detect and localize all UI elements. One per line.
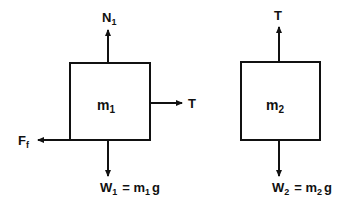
block-m2-label: m2: [266, 97, 284, 115]
weight-force-label-m1: W1= m1g: [100, 180, 160, 197]
block-m1: m1 N1 T Ff W1= m1g: [18, 10, 196, 197]
free-body-diagram: m1 N1 T Ff W1= m1g m2 T W2= m2g: [0, 0, 355, 208]
block-m2: m2 T W2= m2g: [241, 8, 332, 197]
tension-force-label-m1: T: [188, 96, 196, 111]
block-m1-box: [70, 63, 150, 140]
tension-force-label-m2: T: [274, 8, 282, 23]
block-m1-label: m1: [97, 97, 115, 115]
normal-force-label: N1: [102, 10, 116, 27]
block-m2-box: [241, 62, 320, 140]
friction-force-label: Ff: [18, 133, 30, 150]
weight-force-label-m2: W2= m2g: [272, 180, 332, 197]
